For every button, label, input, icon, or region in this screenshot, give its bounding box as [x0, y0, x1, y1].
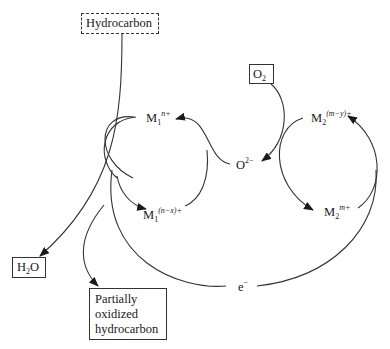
m2-low-base: M: [311, 111, 322, 125]
o2-node: O2: [249, 64, 274, 84]
h2o-node: H2O: [12, 257, 46, 278]
m1-low-base: M: [143, 208, 154, 222]
oxide-base: O: [236, 158, 245, 172]
oxide-sup: 2−: [245, 156, 254, 165]
m1-high-sub: 1: [157, 118, 161, 127]
o2-to-oxide-arrow: [262, 84, 284, 161]
m1-low-sup: (n−x)+: [158, 206, 182, 215]
m2-oxidation-arrow: [348, 116, 377, 208]
o2-sub: 2: [262, 74, 266, 83]
m2-low-sup: (m−y)+: [326, 109, 351, 118]
hydrocarbon-node: Hydrocarbon: [81, 13, 159, 34]
electron-label: e−: [238, 280, 248, 294]
m1-high-label: M1n+: [146, 111, 171, 125]
partial-line-3: hydrocarbon: [95, 322, 161, 337]
electron-sup: −: [244, 278, 249, 287]
partially-oxidized-hydrocarbon-node: Partially oxidized hydrocarbon: [89, 288, 167, 340]
h2o-tail: O: [30, 260, 39, 274]
o2-base: O: [253, 67, 262, 81]
oxide-ion-label: O2−: [236, 158, 254, 172]
oxide-to-m1-arrow: [176, 118, 230, 164]
m1-high-sup: n+: [161, 109, 170, 118]
h2o-base: H: [17, 260, 26, 274]
m2-high-sup: m+: [339, 203, 350, 212]
reaction-arrows: [0, 0, 390, 349]
m2-high-base: M: [324, 205, 335, 219]
hydrocarbon-label: Hydrocarbon: [86, 16, 152, 30]
m2-high-sub: 2: [335, 212, 339, 221]
electron-transfer-arc: [111, 170, 226, 286]
m1-low-label: M1(n−x)+: [143, 208, 182, 222]
m2-high-label: M2m+: [324, 205, 350, 219]
partial-line-1: Partially: [95, 292, 161, 307]
m2-low-sub: 2: [322, 118, 326, 127]
m2-low-label: M2(m−y)+: [311, 111, 352, 125]
hydrocarbon-to-partial-arrow: [83, 205, 104, 286]
m1-low-sub: 1: [154, 215, 158, 224]
m1-high-base: M: [146, 111, 157, 125]
m2-reduction-arrow: [279, 118, 313, 210]
partial-line-2: oxidized: [95, 307, 161, 322]
hydrocarbon-to-h2o-arrow: [40, 34, 122, 256]
